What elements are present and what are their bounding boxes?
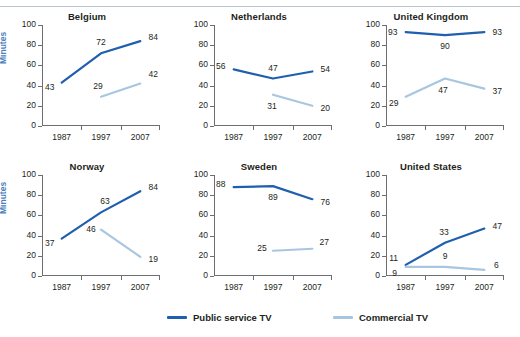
x-tick-label: 1987 [42,282,82,292]
plot-area: 0204060801001987199720075647543120 [214,25,332,126]
y-tick-label: 100 [366,169,380,179]
legend-label-public-service-tv: Public service TV [193,312,272,323]
y-tick-label: 20 [371,100,380,110]
y-tick-mark [210,276,214,277]
x-tick-mark [293,276,294,280]
data-point-label: 46 [86,224,95,234]
data-point-label: 9 [443,251,448,261]
data-point-label: 43 [45,82,54,92]
data-point-label: 47 [438,85,447,95]
small-multiples-grid: BelgiumMinutes02040608010019871997200743… [0,8,520,308]
series-line-commercial-tv [101,84,140,97]
x-tick-mark [121,126,122,130]
chart-panel-netherlands: Netherlands02040608010019871997200756475… [174,8,344,158]
data-point-label: 84 [149,32,158,42]
x-tick-label: 2007 [292,282,332,292]
data-point-label: 37 [45,238,54,248]
chart-panel-belgium: BelgiumMinutes02040608010019871997200743… [2,8,172,158]
data-point-label: 54 [321,64,330,74]
y-tick-label: 40 [27,80,36,90]
chart-legend: Public service TV Commercial TV [0,310,520,330]
data-point-label: 20 [321,103,330,113]
data-point-label: 72 [96,37,105,47]
chart-panel-united-states: United States020406080100198719972007113… [346,158,516,308]
y-tick-label: 20 [199,100,208,110]
legend-item-public-service-tv: Public service TV [167,312,272,323]
data-point-label: 90 [440,41,449,51]
x-tick-label: 1987 [214,282,254,292]
y-tick-label: 0 [203,270,208,280]
chart-figure: BelgiumMinutes02040608010019871997200743… [0,0,520,337]
x-tick-label: 1987 [386,132,426,142]
y-tick-label: 100 [194,19,208,29]
x-tick-label: 1987 [42,132,82,142]
series-line-commercial-tv [273,95,312,106]
x-tick-label: 1997 [81,282,121,292]
x-tick-label: 2007 [120,132,160,142]
x-tick-mark [425,126,426,130]
data-point-label: 11 [389,253,398,263]
x-tick-label: 1997 [253,282,293,292]
x-tick-label: 1997 [425,282,465,292]
series-line-public-service-tv [406,32,485,35]
chart-panel-united-kingdom: United Kingdom02040608010019871997200793… [346,8,516,158]
x-tick-mark [121,276,122,280]
series-lines [42,175,160,276]
series-line-commercial-tv [101,230,140,257]
x-tick-mark [159,126,160,130]
y-tick-label: 80 [27,189,36,199]
data-point-label: 84 [149,182,158,192]
x-tick-mark [465,126,466,130]
y-tick-label: 60 [371,59,380,69]
x-tick-label: 1987 [214,132,254,142]
data-point-label: 88 [216,179,225,189]
y-tick-label: 40 [199,80,208,90]
y-tick-label: 100 [22,19,36,29]
y-tick-label: 40 [27,230,36,240]
y-tick-label: 100 [366,19,380,29]
x-tick-mark [253,126,254,130]
y-tick-label: 100 [194,169,208,179]
y-tick-label: 60 [27,59,36,69]
legend-swatch-public-service-tv [167,316,187,319]
legend-swatch-commercial-tv [333,316,353,319]
series-line-public-service-tv [62,41,141,82]
series-lines [214,175,332,276]
x-tick-label: 1997 [425,132,465,142]
plot-area: 0204060801001987199720078889762527 [214,175,332,276]
y-axis-label: Minutes [0,4,8,64]
legend-item-commercial-tv: Commercial TV [333,312,428,323]
data-point-label: 6 [494,260,499,270]
y-tick-label: 0 [31,120,36,130]
x-tick-label: 1987 [386,282,426,292]
x-tick-label: 2007 [464,132,504,142]
x-tick-label: 2007 [292,132,332,142]
series-lines [214,25,332,126]
data-point-label: 29 [389,98,398,108]
chart-panel-sweden: Sweden0204060801001987199720078889762527 [174,158,344,308]
plot-area: 020406080100198719972007113347996 [386,175,504,276]
series-line-commercial-tv [273,249,312,251]
x-tick-label: 2007 [464,282,504,292]
y-tick-label: 100 [22,169,36,179]
y-tick-label: 80 [27,39,36,49]
plot-area: 0204060801001987199720074372842942 [42,25,160,126]
x-tick-mark [253,276,254,280]
data-point-label: 37 [493,86,502,96]
x-tick-mark [465,276,466,280]
data-point-label: 27 [320,237,329,247]
data-point-label: 56 [216,61,225,71]
y-axis-label: Minutes [0,154,8,214]
y-tick-label: 20 [371,250,380,260]
y-tick-label: 0 [375,120,380,130]
y-tick-label: 60 [199,209,208,219]
y-tick-label: 60 [199,59,208,69]
y-tick-label: 80 [371,189,380,199]
y-tick-mark [38,126,42,127]
y-tick-label: 80 [371,39,380,49]
legend-label-commercial-tv: Commercial TV [359,312,428,323]
data-point-label: 25 [257,243,266,253]
x-tick-mark [331,276,332,280]
y-tick-label: 80 [199,39,208,49]
data-point-label: 42 [149,69,158,79]
